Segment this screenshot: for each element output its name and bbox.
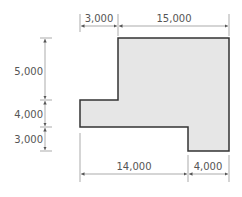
dimension-diagram: 3,000 15,000 5,000 4,000 3,000 14,000 4,… <box>0 0 242 197</box>
dim-label-top-2: 15,000 <box>157 13 192 24</box>
dim-label-bottom-2: 4,000 <box>194 161 223 172</box>
dim-label-left-1: 5,000 <box>14 66 43 77</box>
dim-label-bottom-1: 14,000 <box>117 161 152 172</box>
floor-shape <box>80 38 229 151</box>
dim-label-left-3: 3,000 <box>14 134 43 145</box>
dim-label-top-1: 3,000 <box>85 13 114 24</box>
dim-label-left-2: 4,000 <box>14 109 43 120</box>
